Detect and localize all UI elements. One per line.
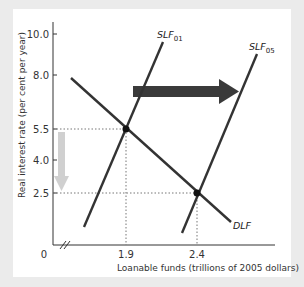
slf01-label-main: SLF bbox=[157, 29, 174, 40]
y-tick-2-5: 2.5 bbox=[33, 188, 49, 199]
dlf-label: DLF bbox=[233, 220, 252, 231]
slf05-label-main: SLF bbox=[249, 41, 266, 52]
slf01-curve bbox=[84, 42, 163, 227]
x-axis-title: Loanable funds (trillions of 2005 dollar… bbox=[117, 263, 299, 273]
slf01-label-sub: 01 bbox=[174, 35, 183, 43]
y-axis-title: Real interest rate (per cent per year) bbox=[17, 32, 27, 198]
x-tick-1-9: 1.9 bbox=[118, 249, 134, 260]
x-tick-2-4: 2.4 bbox=[189, 249, 205, 260]
slf01-label: SLF01 bbox=[157, 29, 183, 43]
y-tick-5-5: 5.5 bbox=[33, 124, 49, 135]
y-ticks bbox=[53, 34, 57, 193]
equilibrium-point-1 bbox=[123, 126, 130, 133]
y-tick-4: 4.0 bbox=[33, 155, 49, 166]
y-tick-10: 10.0 bbox=[27, 29, 49, 40]
guide-lines bbox=[53, 129, 197, 245]
slf05-label: SLF05 bbox=[249, 41, 275, 55]
rate-fall-arrow bbox=[54, 132, 69, 191]
slf05-label-sub: 05 bbox=[266, 47, 275, 55]
equilibrium-point-2 bbox=[194, 190, 201, 197]
loanable-funds-chart: 10.0 8.0 5.5 4.0 2.5 0 1.9 2.4 Loanable … bbox=[0, 0, 304, 287]
x-tick-0: 0 bbox=[41, 249, 47, 260]
supply-shift-arrow bbox=[133, 79, 239, 104]
y-tick-8: 8.0 bbox=[33, 70, 49, 81]
